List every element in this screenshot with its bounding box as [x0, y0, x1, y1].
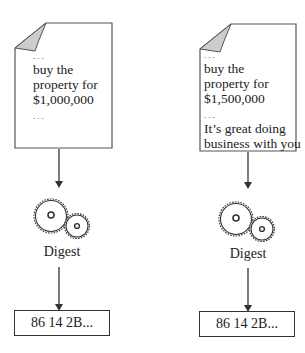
- gears-icon: [217, 200, 279, 248]
- ellipsis: ...: [33, 110, 98, 122]
- digest-label: Digest: [22, 244, 102, 260]
- hash-output-box: 86 14 2B...: [199, 311, 295, 337]
- gears-icon: [32, 197, 94, 245]
- left-document: ... buy the property for $1,000,000 ...: [14, 22, 114, 150]
- doc-line: $1,000,000: [33, 92, 98, 107]
- arrow-down-icon: [54, 267, 64, 312]
- hash-output-box: 86 14 2B...: [14, 310, 110, 336]
- ellipsis: ...: [204, 109, 301, 121]
- arrow-down-icon: [243, 152, 253, 190]
- doc-line: property for: [204, 76, 301, 91]
- doc-line: property for: [33, 77, 98, 92]
- doc-line: It’s great doing: [204, 121, 301, 136]
- ellipsis: ...: [204, 49, 301, 61]
- right-document: ... buy the property for $1,500,000 ... …: [199, 23, 299, 153]
- ellipsis: ...: [33, 50, 98, 62]
- arrow-down-icon: [54, 149, 64, 189]
- arrow-down-icon: [243, 268, 253, 313]
- doc-line: $1,500,000: [204, 91, 301, 106]
- digest-label: Digest: [208, 246, 288, 262]
- doc-line: buy the: [33, 62, 98, 77]
- doc-line: business with you: [204, 136, 301, 151]
- doc-line: buy the: [204, 61, 301, 76]
